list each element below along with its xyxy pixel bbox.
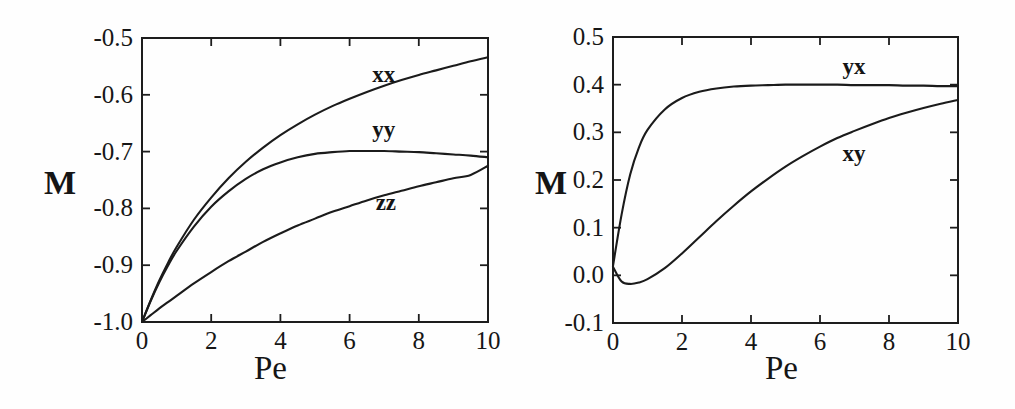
y-tick-label: -0.5 — [93, 25, 133, 50]
y-tick-label: 0.1 — [573, 215, 604, 240]
y-tick-label: 0.3 — [573, 119, 604, 144]
y-tick-label: -0.7 — [93, 139, 133, 164]
x-tick-label: 4 — [729, 329, 773, 354]
x-tick-label: 6 — [328, 328, 372, 353]
curve-yy — [142, 151, 488, 322]
curve-label-yy: yy — [372, 118, 395, 141]
y-tick-label: -0.8 — [93, 195, 133, 220]
curve-label-xx: xx — [372, 63, 395, 86]
chart-panel-left: M Pe -1.0-0.9-0.8-0.7-0.6-0.5 0246810 xx… — [0, 0, 505, 409]
x-axis-title-left: Pe — [254, 352, 287, 385]
curve-label-zz: zz — [376, 191, 396, 214]
y-tick-label: 0.4 — [573, 72, 604, 97]
y-axis-title-left: M — [44, 166, 76, 200]
curve-label-xy: xy — [843, 142, 866, 165]
figure-canvas: M Pe -1.0-0.9-0.8-0.7-0.6-0.5 0246810 xx… — [0, 0, 1015, 409]
y-tick-label: -0.6 — [93, 82, 133, 107]
chart-panel-right: M Pe -0.10.00.10.20.30.40.5 0246810 yxxy — [505, 0, 1015, 409]
y-axis-title-right: M — [535, 166, 567, 200]
plot-frame — [613, 37, 958, 323]
y-tick-label: 0.2 — [573, 167, 604, 192]
x-axis-title-right: Pe — [765, 352, 798, 385]
x-tick-label: 6 — [798, 329, 842, 354]
x-tick-label: 8 — [867, 329, 911, 354]
x-tick-label: 10 — [466, 328, 510, 353]
curve-label-yx: yx — [843, 55, 866, 78]
x-tick-label: 4 — [258, 328, 302, 353]
y-tick-label: -0.9 — [93, 252, 133, 277]
y-tick-label: 0.5 — [573, 24, 604, 49]
x-tick-label: 10 — [936, 329, 980, 354]
y-tick-label: 0.0 — [573, 262, 604, 287]
x-tick-label: 2 — [660, 329, 704, 354]
x-tick-label: 0 — [591, 329, 635, 354]
x-tick-label: 2 — [189, 328, 233, 353]
curve-zz — [142, 166, 488, 322]
x-tick-label: 8 — [397, 328, 441, 353]
plot-frame — [142, 38, 488, 322]
x-tick-label: 0 — [120, 328, 164, 353]
curve-xy — [613, 100, 958, 284]
